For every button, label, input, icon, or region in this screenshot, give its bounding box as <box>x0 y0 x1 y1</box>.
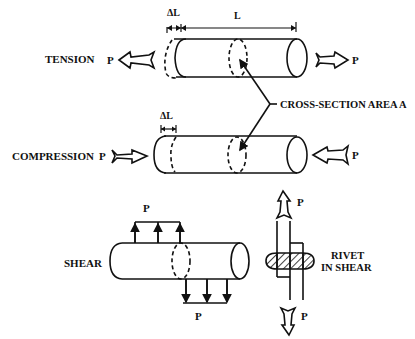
shear-load-bottom-label: P <box>195 310 202 322</box>
shear-load-top-label: P <box>143 202 150 214</box>
compression-panel: COMPRESSION P ΔL P <box>12 110 359 173</box>
shear-top-forces <box>135 222 180 243</box>
compression-load-right-label: P <box>352 149 359 161</box>
compression-dimension: ΔL <box>160 110 176 133</box>
rivet-label-line2: IN SHEAR <box>321 262 372 273</box>
rivet-load-top-label: P <box>297 196 304 208</box>
tension-delta-l-label: ΔL <box>167 7 180 18</box>
tension-load-left-label: P <box>107 54 114 66</box>
tension-arrow-left-icon <box>119 52 154 68</box>
shear-bar <box>110 243 249 279</box>
tension-dimension: ΔL L <box>167 7 296 33</box>
shear-bottom-forces <box>183 279 227 303</box>
tension-arrow-right-icon <box>316 52 348 68</box>
rivet-arrow-down-icon <box>281 308 295 335</box>
compression-bar <box>154 136 307 173</box>
rivet-label-line1: RIVET <box>331 250 364 261</box>
tension-length-label: L <box>234 10 241 21</box>
tension-bar <box>165 39 307 78</box>
compression-arrow-left-icon <box>112 150 147 163</box>
compression-arrow-right-icon <box>313 146 348 164</box>
shear-label: SHEAR <box>64 257 103 269</box>
shear-panel: SHEAR P P <box>64 202 249 322</box>
tension-load-right-label: P <box>352 54 359 66</box>
rivet-arrow-up-icon <box>277 191 291 218</box>
tension-label: TENSION <box>45 53 95 65</box>
cross-section-label: CROSS-SECTION AREA A <box>280 99 407 110</box>
compression-load-left-label: P <box>99 150 106 162</box>
rivet-icon <box>266 253 314 269</box>
rivet-panel: P RIVET IN SHEAR P <box>266 191 372 335</box>
tension-panel: TENSION P ΔL L P <box>45 7 359 78</box>
compression-delta-l-label: ΔL <box>160 110 173 121</box>
loading-types-diagram: TENSION P ΔL L P <box>0 0 415 339</box>
rivet-load-bottom-label: P <box>301 310 308 322</box>
compression-label: COMPRESSION <box>12 150 94 162</box>
